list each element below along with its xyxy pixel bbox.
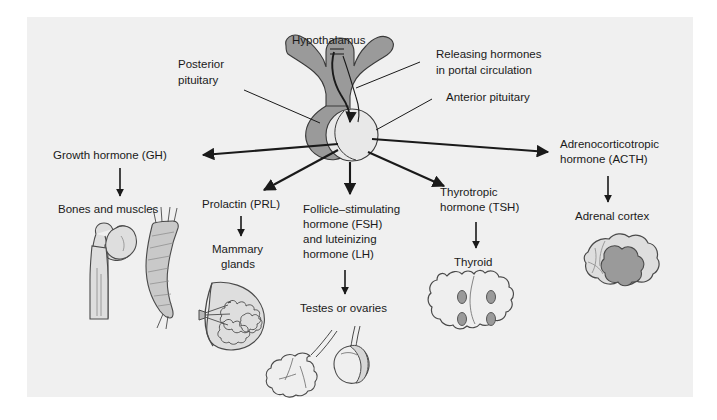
label-fsh-lh-hormone-line2: hormone (FSH) <box>303 218 382 230</box>
arrow-to-acth <box>372 139 548 152</box>
bone-and-muscle-illustration <box>90 207 178 329</box>
label-acth-hormone-line1: Adrenocorticotropic <box>560 138 659 150</box>
thyroid-shape <box>428 270 513 328</box>
label-releasing-hormones-line1: Releasing hormones <box>436 48 542 60</box>
fallopian-tube <box>311 330 337 357</box>
leader-anterior-pituitary <box>376 99 432 130</box>
breast-shape <box>207 282 265 350</box>
parathyroid-lower-left <box>458 313 467 326</box>
label-acth-hormone-line2: hormone (ACTH) <box>560 153 648 165</box>
label-posterior-pituitary-line1: Posterior <box>178 58 224 70</box>
label-prl-target-line2: glands <box>221 258 255 270</box>
hormone-pathway-diagram: Hypothalamus Posterior pituitary Releasi… <box>0 0 717 420</box>
mammary-gland-illustration <box>199 282 264 350</box>
femur-shaft <box>90 246 108 319</box>
femur-head <box>106 226 137 259</box>
gonad-illustration <box>266 326 369 397</box>
label-anterior-pituitary: Anterior pituitary <box>446 91 530 103</box>
label-hypothalamus: Hypothalamus <box>292 34 366 46</box>
label-acth-target: Adrenal cortex <box>575 210 649 222</box>
leader-posterior-pituitary <box>244 90 320 123</box>
label-fsh-lh-target: Testes or ovaries <box>300 302 387 314</box>
label-posterior-pituitary-line2: pituitary <box>178 74 219 86</box>
label-gh-hormone: Growth hormone (GH) <box>53 149 167 161</box>
pathway-acth: Adrenocorticotropic hormone (ACTH) Adren… <box>560 138 659 286</box>
label-fsh-lh-hormone-line1: Follicle–stimulating <box>303 203 400 215</box>
hypothalamus-pituitary-anatomy <box>286 35 394 161</box>
nipple-shape <box>199 310 205 320</box>
parathyroid-lower-right <box>487 313 496 326</box>
label-prl-hormone: Prolactin (PRL) <box>202 198 280 210</box>
pathway-tsh: Thyrotropic hormone (TSH) Thyroid <box>428 186 519 329</box>
pathway-gh: Growth hormone (GH) Bones and muscles <box>53 149 178 329</box>
label-tsh-target: Thyroid <box>454 256 492 268</box>
parathyroid-upper-right <box>487 291 496 304</box>
thyroid-illustration <box>428 270 513 328</box>
label-tsh-hormone-line1: Thyrotropic <box>440 186 498 198</box>
arrow-to-tsh <box>368 152 444 186</box>
arrow-to-prl <box>264 150 338 190</box>
label-fsh-lh-hormone-line4: hormone (LH) <box>303 248 374 260</box>
pathway-prl: Prolactin (PRL) Mammary glands <box>199 198 280 350</box>
hypothalamus-shape <box>286 35 394 112</box>
label-tsh-hormone-line2: hormone (TSH) <box>440 201 519 213</box>
label-releasing-hormones-line2: in portal circulation <box>436 64 532 76</box>
parathyroid-upper-left <box>458 291 467 304</box>
label-fsh-lh-hormone-line3: and luteinizing <box>303 233 377 245</box>
pathway-fsh-lh: Follicle–stimulating hormone (FSH) and l… <box>266 203 400 397</box>
label-prl-target-line1: Mammary <box>212 243 263 255</box>
label-gh-target: Bones and muscles <box>58 203 159 215</box>
figure-root: Hypothalamus Posterior pituitary Releasi… <box>0 0 717 420</box>
adrenal-gland-illustration <box>584 234 659 286</box>
